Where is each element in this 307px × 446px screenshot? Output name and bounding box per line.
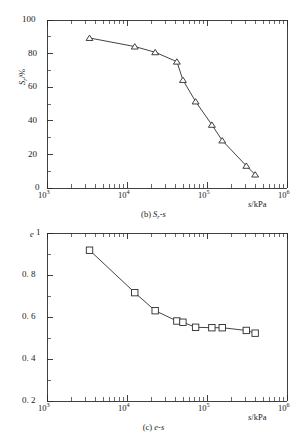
data-point-marker bbox=[174, 318, 180, 324]
y-axis-minor-ticks bbox=[47, 37, 51, 171]
series-polyline bbox=[90, 38, 256, 175]
data-point-marker bbox=[152, 308, 158, 314]
chart-panel-sr-s: 100 80 60 40 20 0 103 104 105 106 Sr/% s… bbox=[0, 0, 307, 223]
x-axis-major-ticks bbox=[47, 233, 287, 401]
y-tick-label-b-80: 80 bbox=[28, 49, 37, 58]
y-tick-label-c-08: 0. 8 bbox=[22, 270, 36, 279]
panel-caption-b: (b) Sr-s bbox=[0, 210, 307, 219]
x-tick-label-b-1e6: 106 bbox=[278, 191, 290, 200]
data-point-marker bbox=[219, 138, 226, 143]
x-tick-label-c-1e5: 105 bbox=[198, 404, 210, 413]
data-series-e bbox=[86, 247, 258, 336]
y-tick-label-c-06: 0. 6 bbox=[22, 312, 36, 321]
y-tick-label-b-100: 100 bbox=[22, 15, 36, 24]
data-point-marker bbox=[179, 77, 186, 82]
x-axis-major-ticks bbox=[47, 20, 287, 188]
y-axis-major-ticks bbox=[47, 233, 53, 401]
series-polyline bbox=[90, 250, 256, 333]
x-axis-title-c: s/kPa bbox=[248, 413, 266, 422]
chart-panel-e-s: 1 0. 8 0. 6 0. 4 0. 2 103 104 105 106 e … bbox=[0, 223, 307, 446]
x-axis-minor-ticks bbox=[71, 20, 283, 188]
x-tick-label-b-1e4: 104 bbox=[118, 191, 130, 200]
y-tick-label-b-60: 60 bbox=[28, 82, 37, 91]
data-point-marker bbox=[208, 122, 215, 127]
data-point-marker bbox=[173, 59, 180, 64]
data-point-marker bbox=[243, 327, 249, 333]
y-axis-title-e: e bbox=[30, 230, 34, 239]
data-point-marker bbox=[132, 289, 138, 295]
x-axis-title-b: s/kPa bbox=[248, 200, 266, 209]
x-tick-label-c-1e4: 104 bbox=[118, 404, 130, 413]
figure-container: 100 80 60 40 20 0 103 104 105 106 Sr/% s… bbox=[0, 0, 307, 446]
data-point-marker bbox=[192, 324, 198, 330]
data-point-marker bbox=[86, 35, 93, 40]
y-tick-label-b-20: 20 bbox=[28, 150, 37, 159]
data-point-marker bbox=[209, 325, 215, 331]
panel-caption-c: (c) e-s bbox=[0, 423, 307, 432]
data-series-sr bbox=[86, 35, 259, 177]
y-tick-label-c-02: 0. 2 bbox=[22, 396, 36, 405]
x-tick-label-b-1e3: 103 bbox=[38, 191, 50, 200]
x-tick-label-c-1e3: 103 bbox=[38, 404, 50, 413]
y-tick-label-c-04: 0. 4 bbox=[22, 354, 36, 363]
data-point-marker bbox=[192, 99, 199, 104]
y-tick-label-c-1: 1 bbox=[36, 228, 41, 237]
y-tick-label-b-40: 40 bbox=[28, 116, 37, 125]
data-point-marker bbox=[219, 325, 225, 331]
y-axis-title-sr: Sr/% bbox=[18, 69, 27, 85]
x-tick-label-c-1e6: 106 bbox=[278, 404, 290, 413]
x-axis-minor-ticks bbox=[71, 233, 283, 401]
axis-frame bbox=[47, 233, 287, 401]
x-tick-label-b-1e5: 105 bbox=[198, 191, 210, 200]
data-point-marker bbox=[86, 247, 92, 253]
data-point-marker bbox=[180, 319, 186, 325]
axis-frame bbox=[47, 20, 287, 188]
data-point-marker bbox=[252, 330, 258, 336]
